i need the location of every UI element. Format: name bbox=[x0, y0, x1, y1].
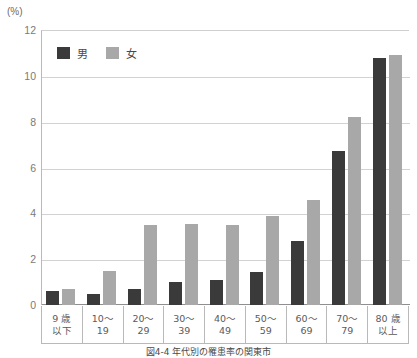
bar-group-6 bbox=[245, 30, 286, 305]
bar-male-2 bbox=[87, 294, 100, 305]
x-category-line2: 49 bbox=[219, 325, 231, 337]
bar-female-3 bbox=[144, 225, 157, 305]
figure-caption: 図4-4 年代別の罹患率の関東市 bbox=[0, 345, 417, 358]
y-tick-6: 6 bbox=[10, 162, 36, 174]
bar-male-4 bbox=[169, 282, 182, 305]
bar-female-6 bbox=[266, 216, 279, 305]
x-category-line1: 10〜 bbox=[92, 313, 114, 325]
bar-group-9 bbox=[368, 30, 409, 305]
x-category-9: 80 歳以上 bbox=[368, 306, 408, 343]
x-category-3: 20〜29 bbox=[124, 306, 165, 343]
bar-male-3 bbox=[128, 289, 141, 305]
bar-group-8 bbox=[327, 30, 368, 305]
x-category-line1: 80 歳 bbox=[376, 313, 401, 325]
x-category-line1: 40〜 bbox=[214, 313, 236, 325]
female-swatch bbox=[106, 47, 119, 59]
x-category-4: 30〜39 bbox=[164, 306, 205, 343]
bar-female-9 bbox=[389, 55, 402, 305]
x-category-line2: 59 bbox=[260, 325, 272, 337]
x-category-5: 40〜49 bbox=[205, 306, 246, 343]
bar-male-6 bbox=[250, 272, 263, 305]
x-category-line1: 70〜 bbox=[336, 313, 358, 325]
x-category-line2: 以下 bbox=[52, 325, 72, 337]
x-category-line1: 50〜 bbox=[255, 313, 277, 325]
bar-group-3 bbox=[123, 30, 164, 305]
x-category-line2: 79 bbox=[341, 325, 353, 337]
x-category-line2: 29 bbox=[137, 325, 149, 337]
x-category-line1: 30〜 bbox=[173, 313, 195, 325]
x-category-1: 9 歳以下 bbox=[42, 306, 83, 343]
y-tick-4: 4 bbox=[10, 207, 36, 219]
y-tick-10: 10 bbox=[10, 70, 36, 82]
y-axis-tick-labels: 024681012 bbox=[4, 30, 36, 305]
bar-female-7 bbox=[307, 200, 320, 305]
bar-female-8 bbox=[348, 117, 361, 305]
x-category-7: 60〜69 bbox=[287, 306, 328, 343]
x-category-line2: 39 bbox=[178, 325, 190, 337]
bar-group-7 bbox=[286, 30, 327, 305]
x-category-line2: 69 bbox=[301, 325, 313, 337]
y-tick-8: 8 bbox=[10, 116, 36, 128]
x-category-8: 70〜79 bbox=[327, 306, 368, 343]
legend-label-female: 女 bbox=[126, 45, 137, 61]
x-category-line2: 以上 bbox=[378, 325, 398, 337]
legend-item-female: 女 bbox=[106, 45, 137, 61]
x-category-line2: 19 bbox=[97, 325, 109, 337]
legend-item-male: 男 bbox=[57, 45, 88, 61]
x-category-line1: 20〜 bbox=[132, 313, 154, 325]
x-axis-categories: 9 歳以下10〜1920〜2930〜3940〜4950〜5960〜6970〜79… bbox=[41, 306, 409, 344]
bar-female-1 bbox=[62, 289, 75, 305]
y-tick-0: 0 bbox=[10, 299, 36, 311]
chart-legend: 男 女 bbox=[57, 45, 137, 61]
bar-group-4 bbox=[164, 30, 205, 305]
bar-male-7 bbox=[291, 241, 304, 305]
x-category-2: 10〜19 bbox=[83, 306, 124, 343]
bar-group-5 bbox=[205, 30, 246, 305]
bar-group-1 bbox=[41, 30, 82, 305]
x-category-6: 50〜59 bbox=[246, 306, 287, 343]
bar-female-2 bbox=[103, 271, 116, 305]
x-category-line1: 60〜 bbox=[296, 313, 318, 325]
y-axis-unit-label: (%) bbox=[7, 6, 23, 17]
bar-group-2 bbox=[82, 30, 123, 305]
bars-layer bbox=[41, 30, 409, 305]
x-category-line1: 9 歳 bbox=[52, 313, 71, 325]
bar-male-9 bbox=[373, 58, 386, 306]
legend-label-male: 男 bbox=[77, 45, 88, 61]
male-swatch bbox=[57, 47, 70, 59]
y-tick-2: 2 bbox=[10, 253, 36, 265]
y-tick-12: 12 bbox=[10, 24, 36, 36]
bar-male-5 bbox=[210, 280, 223, 305]
bar-female-5 bbox=[226, 225, 239, 305]
bar-male-8 bbox=[332, 151, 345, 305]
bar-female-4 bbox=[185, 224, 198, 305]
bar-male-1 bbox=[46, 291, 59, 305]
